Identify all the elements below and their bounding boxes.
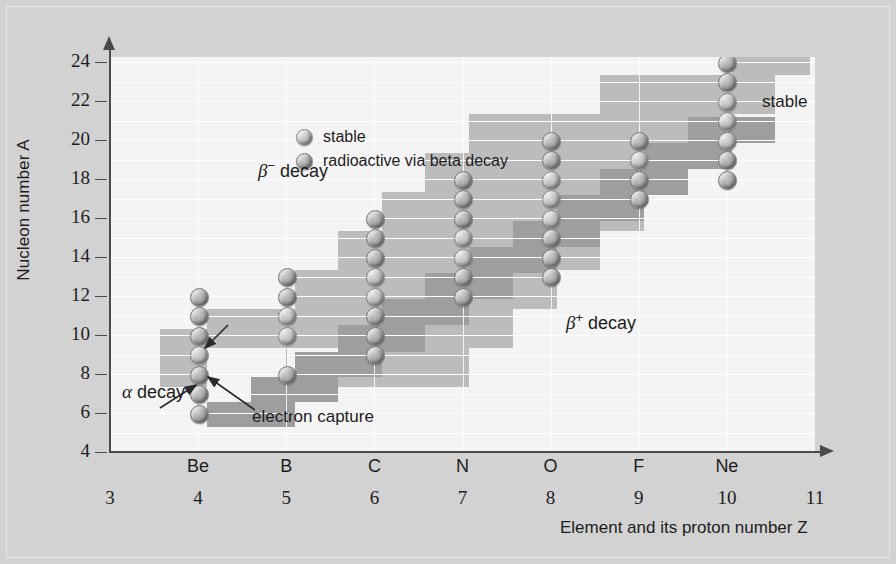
- plus-superscript: +: [575, 310, 583, 325]
- nuclide-marker[interactable]: [718, 93, 737, 112]
- nuclide-marker[interactable]: [542, 229, 561, 248]
- nuclide-marker[interactable]: [366, 249, 385, 268]
- nuclide-marker[interactable]: [190, 288, 209, 307]
- nuclide-marker[interactable]: [366, 288, 385, 307]
- minus-superscript: −: [267, 158, 275, 173]
- nuclide-marker[interactable]: [366, 307, 385, 326]
- x-axis-element-label-ne: Ne: [697, 456, 757, 477]
- x-axis-element-label-f: F: [609, 456, 669, 477]
- nuclide-marker[interactable]: [542, 268, 561, 287]
- x-axis-number-label-4: 4: [168, 487, 228, 509]
- y-axis-tick-label: 18: [50, 167, 90, 189]
- y-axis-tick: [95, 218, 107, 219]
- nuclide-marker[interactable]: [630, 132, 649, 151]
- x-axis-element-label-be: Be: [168, 456, 228, 477]
- nuclide-marker[interactable]: [366, 210, 385, 229]
- y-axis-tick-label: 12: [50, 284, 90, 306]
- nuclide-marker[interactable]: [190, 366, 209, 385]
- nuclide-marker[interactable]: [542, 210, 561, 229]
- x-axis-number-label-3: 3: [80, 487, 140, 509]
- x-axis-number-label-11: 11: [785, 487, 845, 509]
- y-axis-tick: [95, 374, 107, 375]
- y-axis-tick: [95, 335, 107, 336]
- nuclide-marker[interactable]: [366, 268, 385, 287]
- nuclide-marker[interactable]: [190, 346, 209, 365]
- nuclide-marker[interactable]: [454, 210, 473, 229]
- y-axis-tick-label: 10: [50, 323, 90, 345]
- x-axis-element-label-c: C: [344, 456, 404, 477]
- nuclide-marker[interactable]: [542, 190, 561, 209]
- plot-area: stable radioactive via beta decay: [110, 57, 815, 452]
- x-axis-number-label-5: 5: [256, 487, 316, 509]
- y-axis-tick: [95, 140, 107, 141]
- annotation-beta-plus-decay: β+ decay: [566, 310, 636, 334]
- gridline-vertical: [639, 57, 640, 452]
- nuclide-marker[interactable]: [542, 249, 561, 268]
- nuclide-marker[interactable]: [454, 288, 473, 307]
- legend-label-stable: stable: [323, 128, 366, 146]
- annotation-beta-minus-text: decay: [275, 161, 328, 181]
- nuclide-marker[interactable]: [190, 385, 209, 404]
- nuclide-marker[interactable]: [454, 190, 473, 209]
- x-axis-number-label-6: 6: [344, 487, 404, 509]
- nuclide-marker[interactable]: [542, 151, 561, 170]
- annotation-beta-minus-decay: β− decay: [258, 158, 328, 182]
- nuclide-marker[interactable]: [278, 268, 297, 287]
- nuclide-marker[interactable]: [366, 229, 385, 248]
- legend-item-stable: stable: [296, 125, 508, 149]
- nuclide-marker[interactable]: [366, 327, 385, 346]
- x-axis-element-label-o: O: [521, 456, 581, 477]
- x-axis-arrowhead: [820, 445, 834, 457]
- figure-root: stable radioactive via beta decay 468101…: [0, 0, 896, 564]
- y-axis-tick-label: 14: [50, 245, 90, 267]
- nuclide-marker[interactable]: [278, 307, 297, 326]
- y-axis-tick-label: 4: [50, 440, 90, 462]
- band-beta-minus: [160, 57, 810, 387]
- annotation-alpha-text: decay: [132, 382, 185, 402]
- nuclide-marker[interactable]: [718, 132, 737, 151]
- x-axis-number-label-9: 9: [609, 487, 669, 509]
- y-axis-tick: [95, 257, 107, 258]
- nuclide-marker[interactable]: [454, 249, 473, 268]
- y-axis-tick-label: 24: [50, 50, 90, 72]
- y-axis-tick: [95, 179, 107, 180]
- nuclide-marker[interactable]: [366, 346, 385, 365]
- nuclide-marker[interactable]: [190, 327, 209, 346]
- nuclide-marker[interactable]: [718, 171, 737, 190]
- x-axis-title: Element and its proton number Z: [560, 518, 880, 538]
- y-axis-tick: [95, 413, 107, 414]
- x-axis-number-label-7: 7: [433, 487, 493, 509]
- nuclide-marker[interactable]: [278, 288, 297, 307]
- annotation-electron-capture: electron capture: [252, 407, 374, 427]
- y-axis-tick: [95, 101, 107, 102]
- nuclide-marker[interactable]: [190, 405, 209, 424]
- nuclide-marker[interactable]: [454, 268, 473, 287]
- nuclide-marker[interactable]: [190, 307, 209, 326]
- x-axis-line: [110, 451, 822, 453]
- annotation-alpha-decay: α decay: [122, 381, 185, 403]
- annotation-stable: stable: [762, 92, 807, 112]
- y-axis-tick: [95, 62, 107, 63]
- legend-marker-stable: [296, 129, 313, 146]
- gridline-vertical: [286, 57, 287, 452]
- x-axis-element-label-n: N: [433, 456, 493, 477]
- legend-label-radioactive: radioactive via beta decay: [323, 152, 508, 170]
- y-axis-title: Nucleon number A: [14, 45, 34, 375]
- nuclide-marker[interactable]: [454, 171, 473, 190]
- y-axis-tick-label: 16: [50, 206, 90, 228]
- nuclide-marker[interactable]: [278, 327, 297, 346]
- x-axis-number-label-8: 8: [521, 487, 581, 509]
- nuclide-marker[interactable]: [542, 132, 561, 151]
- y-axis-tick-label: 6: [50, 401, 90, 423]
- x-axis-number-label-10: 10: [697, 487, 757, 509]
- annotation-beta-plus-text: decay: [583, 313, 636, 333]
- nuclide-marker[interactable]: [454, 229, 473, 248]
- y-axis-tick-label: 8: [50, 362, 90, 384]
- alpha-symbol: α: [122, 381, 132, 402]
- nuclide-marker[interactable]: [278, 366, 297, 385]
- nuclide-marker[interactable]: [630, 171, 649, 190]
- y-axis-tick: [95, 296, 107, 297]
- y-axis-tick: [95, 452, 107, 453]
- nuclide-marker[interactable]: [542, 171, 561, 190]
- x-axis-element-label-b: B: [256, 456, 316, 477]
